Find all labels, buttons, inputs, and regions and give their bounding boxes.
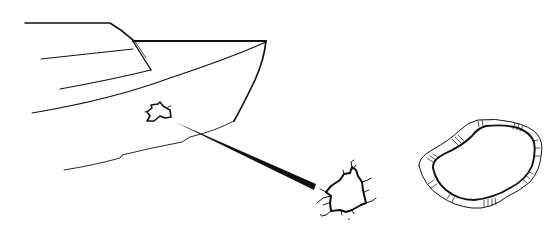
- pointer-line: [175, 122, 316, 190]
- patch-ring: [419, 119, 542, 208]
- boat-hull-repair-illustration: [0, 0, 558, 233]
- hole-detail: [317, 160, 376, 220]
- hull-hole: [145, 102, 171, 121]
